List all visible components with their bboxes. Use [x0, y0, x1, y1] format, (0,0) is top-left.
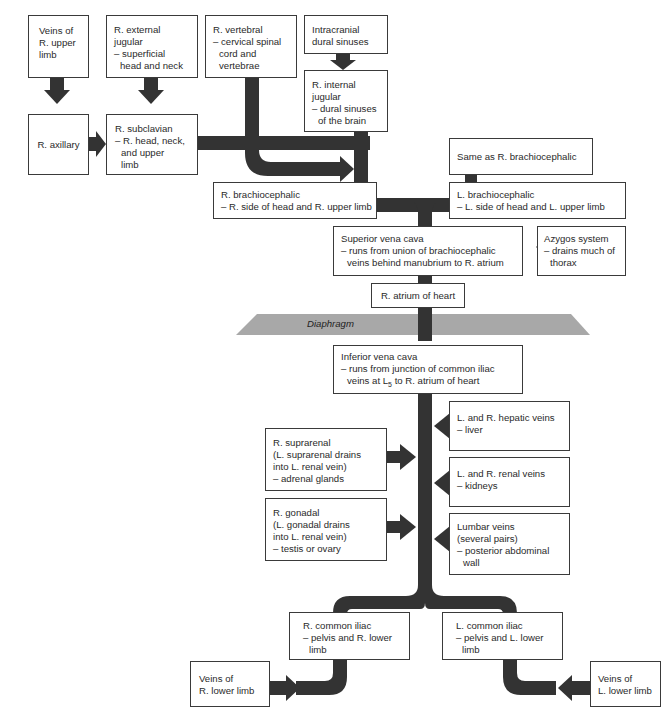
box-r-subclavian: R. subclavian – R. head, neck, and upper…: [106, 114, 198, 175]
box-azygos-system: Azygos system – drains much of thorax: [537, 226, 626, 276]
box-l-brachiocephalic: L. brachiocephalic – L. side of head and…: [449, 182, 626, 219]
diaphragm-band: [236, 314, 590, 335]
box-intracranial-dural-sinuses: Intracranial dural sinuses: [304, 15, 388, 54]
box-inferior-vena-cava: Inferior vena cava – runs from junction …: [333, 345, 523, 394]
box-veins-l-lower-limb: Veins of L. lower limb: [590, 661, 661, 707]
box-r-atrium-of-heart: R. atrium of heart: [371, 283, 465, 308]
box-r-vertebral: R. vertebral – cervical spinal cord and …: [205, 15, 297, 78]
ivc-desc-line-2: veins at L5 to R. atrium of heart: [341, 375, 522, 387]
box-r-common-iliac: R. common iliac – pelvis and R. lower li…: [289, 612, 410, 660]
box-veins-r-lower-limb: Veins of R. lower limb: [190, 661, 270, 707]
box-hepatic-veins: L. and R. hepatic veins – liver: [449, 401, 570, 451]
box-r-gonadal: R. gonadal (L. gonadal drains into L. re…: [265, 498, 387, 561]
box-r-external-jugular: R. external jugular – superficial head a…: [106, 15, 198, 78]
box-lumbar-veins: Lumbar veins (several pairs) – posterior…: [449, 513, 570, 575]
box-r-internal-jugular: R. internal jugular – dural sinuses of t…: [304, 70, 388, 132]
box-r-suprarenal: R. suprarenal (L. suprarenal drains into…: [265, 428, 387, 491]
box-superior-vena-cava: Superior vena cava – runs from union of …: [333, 226, 523, 276]
box-renal-veins: L. and R. renal veins – kidneys: [449, 457, 570, 507]
venous-drainage-diagram: Veins of R. upper limb R. external jugul…: [0, 0, 661, 727]
box-l-common-iliac: L. common iliac – pelvis and L. lower li…: [442, 612, 563, 660]
diaphragm-label: Diaphragm: [307, 318, 354, 329]
box-same-as-r-brachiocephalic: Same as R. brachiocephalic: [449, 138, 593, 175]
box-r-brachiocephalic: R. brachiocephalic – R. side of head and…: [213, 182, 377, 219]
box-veins-r-upper-limb: Veins of R. upper limb: [28, 15, 89, 78]
box-r-axillary: R. axillary: [28, 114, 89, 175]
